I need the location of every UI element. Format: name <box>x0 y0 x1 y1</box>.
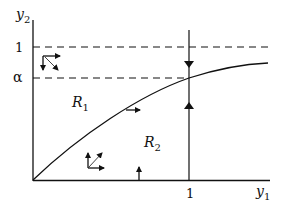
down-arrow-icon <box>184 61 194 68</box>
region-label-r1: R1 <box>71 94 89 113</box>
tick-label-alpha: α <box>13 69 23 85</box>
tick-label-y-one: 1 <box>15 40 23 55</box>
direction-triad-upper-icon <box>43 56 60 70</box>
y-axis-label: y2 <box>15 6 30 25</box>
region-label-r2: R2 <box>143 134 161 153</box>
nullcline-curve <box>33 63 268 180</box>
tick-label-x-one: 1 <box>186 186 194 201</box>
up-arrow-icon <box>184 102 194 109</box>
phase-diagram: y2 1 α R1 R2 1 y1 <box>0 0 285 204</box>
x-axis-label: y1 <box>255 183 270 202</box>
direction-triad-lower-icon <box>88 153 104 168</box>
